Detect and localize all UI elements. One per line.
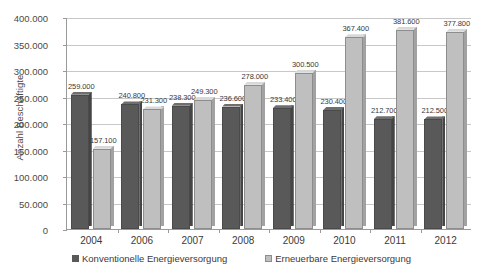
bar-side-face	[190, 103, 193, 226]
legend-item[interactable]: Konventionelle Energieversorgung	[72, 253, 227, 264]
x-axis-tick-label-2006: 2006	[117, 232, 168, 248]
bar-front-face	[143, 109, 161, 229]
bar-conv-2004[interactable]: 259.000	[71, 92, 92, 229]
bar-chart: Anzahl Beschäftigte 050.000100.000150.00…	[0, 0, 483, 276]
bar-group: 230.400367.400	[320, 18, 371, 229]
bar-value-label: 231.300	[141, 96, 167, 105]
bar-front-face	[424, 119, 442, 229]
bar-side-face	[111, 146, 114, 226]
bar-front-face	[396, 30, 414, 229]
y-axis-tick-label: 350.000	[0, 39, 48, 50]
bar-groups: 259.000157.100240.800231.300238.300249.3…	[67, 18, 471, 229]
x-axis-tick-label-2011: 2011	[370, 232, 421, 248]
bar-ren-2006[interactable]: 231.300	[143, 106, 164, 229]
bar-value-label: 367.400	[343, 24, 369, 33]
bar-value-label: 157.100	[90, 136, 116, 145]
x-axis-ticks: 20042006200720082009201020112012	[66, 232, 471, 248]
bar-conv-2008[interactable]: 236.600	[222, 104, 243, 229]
bar-side-face	[341, 107, 344, 226]
bar-side-face	[392, 116, 395, 226]
x-axis-tick-label-2007: 2007	[167, 232, 218, 248]
bar-value-label: 233.400	[270, 95, 296, 104]
bar-group: 236.600278.000	[219, 18, 270, 229]
bar-value-label: 249.300	[191, 87, 217, 96]
bar-side-face	[139, 101, 142, 226]
bar-front-face	[345, 37, 363, 229]
plot-area: 050.000100.000150.000200.000250.000300.0…	[66, 18, 471, 230]
x-axis-tick-label-2008: 2008	[218, 232, 269, 248]
bar-ren-2008[interactable]: 278.000	[244, 82, 265, 229]
bar-ren-2010[interactable]: 367.400	[345, 34, 366, 229]
y-axis-tick-label: 400.000	[0, 13, 48, 24]
bar-ren-2007[interactable]: 249.300	[194, 97, 215, 229]
bar-side-face	[212, 97, 215, 226]
bar-side-face	[240, 104, 243, 226]
bar-front-face	[194, 100, 212, 229]
bar-value-label: 300.500	[292, 60, 318, 69]
chart-legend: Konventionelle EnergieversorgungErneuerb…	[0, 253, 483, 264]
bar-side-face	[89, 92, 92, 226]
bar-front-face	[71, 95, 89, 229]
bar-group: 233.400300.500	[269, 18, 320, 229]
x-axis-tick-label-2009: 2009	[269, 232, 320, 248]
bar-front-face	[273, 108, 291, 229]
y-axis-tick-label: 50.000	[0, 198, 48, 209]
bar-side-face	[313, 70, 316, 226]
bar-ren-2004[interactable]: 157.100	[93, 146, 114, 229]
y-axis-tick-label: 150.000	[0, 145, 48, 156]
bar-value-label: 212.700	[371, 106, 397, 115]
bar-ren-2011[interactable]: 381.600	[396, 27, 417, 229]
bar-group: 240.800231.300	[118, 18, 169, 229]
y-axis-tick-mark	[63, 230, 67, 231]
bar-conv-2011[interactable]: 212.700	[374, 116, 395, 229]
y-axis-tick-label: 300.000	[0, 66, 48, 77]
y-axis-tick-label: 250.000	[0, 92, 48, 103]
bar-group: 238.300249.300	[168, 18, 219, 229]
bar-conv-2007[interactable]: 238.300	[172, 103, 193, 229]
bar-front-face	[446, 32, 464, 229]
bar-conv-2009[interactable]: 233.400	[273, 105, 294, 229]
bar-front-face	[374, 119, 392, 229]
square-marker-light	[265, 255, 272, 262]
x-axis-tick-label-2010: 2010	[319, 232, 370, 248]
x-axis-tick-label-2004: 2004	[66, 232, 117, 248]
bar-front-face	[121, 104, 139, 229]
bar-value-label: 236.600	[220, 94, 246, 103]
legend-item-label: Konventionelle Energieversorgung	[82, 253, 227, 264]
bar-conv-2012[interactable]: 212.500	[424, 116, 445, 229]
bar-front-face	[93, 149, 111, 229]
bar-ren-2012[interactable]: 377.800	[446, 29, 467, 229]
legend-item[interactable]: Erneuerbare Energieversorgung	[265, 253, 411, 264]
bar-conv-2010[interactable]: 230.400	[323, 107, 344, 229]
bar-front-face	[244, 85, 262, 229]
y-axis-tick-label: 0	[0, 225, 48, 236]
legend-item-label: Erneuerbare Energieversorgung	[275, 253, 411, 264]
y-axis-tick-label: 100.000	[0, 172, 48, 183]
x-axis-tick-label-2012: 2012	[420, 232, 471, 248]
bar-group: 212.500377.800	[421, 18, 472, 229]
bar-side-face	[262, 82, 265, 226]
bar-conv-2006[interactable]: 240.800	[121, 101, 142, 229]
bar-value-label: 230.400	[321, 97, 347, 106]
square-marker-dark	[72, 255, 79, 262]
bar-side-face	[291, 105, 294, 226]
y-axis-tick-label: 200.000	[0, 119, 48, 130]
bar-group: 259.000157.100	[67, 18, 118, 229]
bar-value-label: 259.000	[68, 82, 94, 91]
bar-value-label: 377.800	[444, 19, 470, 28]
bar-front-face	[295, 73, 313, 229]
bar-value-label: 381.600	[393, 17, 419, 26]
bar-side-face	[363, 34, 366, 226]
bar-value-label: 278.000	[242, 72, 268, 81]
bar-side-face	[414, 27, 417, 226]
bar-value-label: 212.500	[422, 106, 448, 115]
bar-front-face	[323, 110, 341, 229]
bar-side-face	[161, 106, 164, 226]
bar-side-face	[442, 116, 445, 226]
bar-side-face	[464, 29, 467, 226]
bar-group: 212.700381.600	[370, 18, 421, 229]
bar-front-face	[222, 107, 240, 229]
bar-front-face	[172, 106, 190, 229]
bar-ren-2009[interactable]: 300.500	[295, 70, 316, 229]
